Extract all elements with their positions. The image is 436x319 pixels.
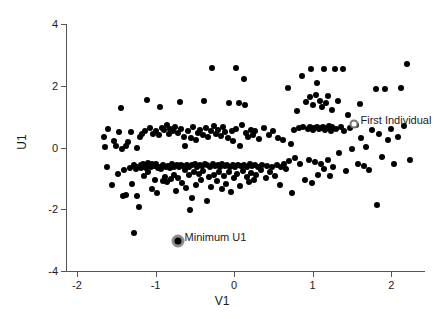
- data-point: [329, 107, 335, 113]
- x-tick-mark: [234, 272, 235, 277]
- data-point: [261, 125, 267, 131]
- data-point: [306, 157, 312, 163]
- data-point: [123, 192, 129, 198]
- data-point: [118, 105, 124, 111]
- data-point: [283, 166, 289, 172]
- data-point: [190, 124, 196, 130]
- data-point: [136, 204, 142, 210]
- data-point: [252, 128, 258, 134]
- y-tick-label: 2: [40, 80, 58, 91]
- data-point: [335, 98, 341, 104]
- annotation-label: Minimum U1: [185, 232, 247, 243]
- data-point: [105, 126, 111, 132]
- data-point: [116, 129, 122, 135]
- data-point: [391, 161, 397, 167]
- data-point: [369, 127, 375, 133]
- data-point: [336, 150, 342, 156]
- data-point: [321, 66, 327, 72]
- highlighted-point-marker: [171, 234, 184, 247]
- data-point: [379, 154, 385, 160]
- data-point: [241, 76, 247, 82]
- data-point: [280, 137, 286, 143]
- data-point: [308, 66, 314, 72]
- y-tick-mark: [61, 86, 66, 87]
- data-point: [223, 181, 229, 187]
- data-point: [187, 207, 193, 213]
- data-point: [340, 66, 346, 72]
- data-point: [237, 143, 243, 149]
- data-point: [325, 157, 331, 163]
- data-point: [253, 172, 259, 178]
- y-tick-mark: [61, 24, 66, 25]
- data-point: [327, 173, 333, 179]
- data-point: [363, 144, 369, 150]
- x-tick-mark: [391, 272, 392, 277]
- scatter-plot-figure: -2-1012 -4-2024 First IndividualMinimum …: [0, 0, 436, 319]
- x-axis-line: [66, 271, 425, 272]
- data-point: [374, 202, 380, 208]
- data-point: [314, 80, 320, 86]
- data-point: [376, 131, 382, 137]
- data-point: [407, 157, 413, 163]
- x-tick-label: 1: [310, 280, 316, 291]
- data-point: [156, 132, 162, 138]
- data-point: [129, 181, 135, 187]
- data-point: [147, 125, 153, 131]
- data-point: [272, 173, 278, 179]
- data-point: [222, 129, 228, 135]
- data-point: [236, 100, 242, 106]
- data-point: [193, 182, 199, 188]
- data-point: [178, 126, 184, 132]
- data-point: [294, 108, 300, 114]
- data-point: [299, 73, 305, 79]
- data-point: [193, 137, 199, 143]
- data-point: [310, 102, 316, 108]
- x-tick-label: 0: [231, 280, 237, 291]
- data-point: [323, 100, 329, 106]
- data-point: [237, 183, 243, 189]
- data-point: [201, 98, 207, 104]
- data-point: [102, 144, 108, 150]
- data-point: [233, 65, 239, 71]
- data-point: [345, 112, 351, 118]
- data-point: [297, 161, 303, 167]
- data-point: [183, 185, 189, 191]
- data-point: [358, 135, 364, 141]
- data-point: [289, 190, 295, 196]
- data-point: [373, 86, 379, 92]
- data-point: [263, 175, 269, 181]
- data-point: [144, 97, 150, 103]
- data-point: [228, 189, 234, 195]
- data-point: [270, 128, 276, 134]
- data-point: [134, 145, 140, 151]
- data-point: [128, 129, 134, 135]
- data-point: [104, 164, 110, 170]
- x-tick-mark: [313, 272, 314, 277]
- data-point: [366, 167, 372, 173]
- data-point: [219, 186, 225, 192]
- y-tick-label: 0: [40, 142, 58, 153]
- data-point: [204, 198, 210, 204]
- x-axis-title: V1: [215, 294, 230, 308]
- data-point: [309, 180, 315, 186]
- data-point: [317, 98, 323, 104]
- data-point: [286, 158, 292, 164]
- data-point: [239, 122, 245, 128]
- data-point: [315, 172, 321, 178]
- data-point: [251, 177, 257, 183]
- x-tick-mark: [77, 272, 78, 277]
- y-tick-label: -4: [40, 266, 58, 277]
- data-point: [209, 65, 215, 71]
- data-point: [189, 195, 195, 201]
- y-tick-mark: [61, 148, 66, 149]
- data-point: [115, 171, 121, 177]
- data-point: [157, 104, 163, 110]
- data-point: [404, 61, 410, 67]
- y-tick-mark: [61, 271, 66, 272]
- data-point: [198, 177, 204, 183]
- y-tick-label: 4: [40, 19, 58, 30]
- y-tick-mark: [61, 209, 66, 210]
- data-point: [185, 128, 191, 134]
- data-point: [205, 134, 211, 140]
- data-point: [182, 143, 188, 149]
